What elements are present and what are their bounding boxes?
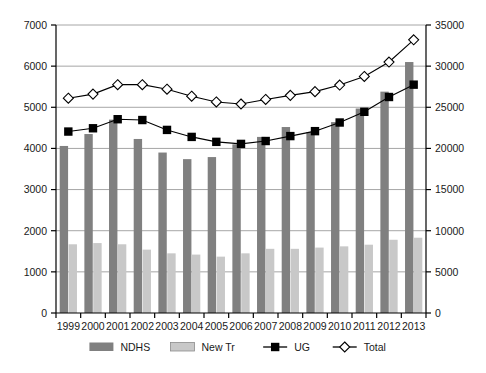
x-tick-label-2004: 2004: [180, 320, 204, 332]
marker-ug-2002: [138, 116, 146, 124]
right-tick-label-5000: 5000: [435, 266, 459, 278]
marker-ug-2013: [409, 80, 417, 88]
marker-ug-2010: [335, 118, 343, 126]
marker-ug-2007: [261, 137, 269, 145]
x-tick-label-2011: 2011: [353, 320, 376, 332]
marker-ug-2000: [89, 124, 97, 132]
left-tick-label-3000: 3000: [24, 183, 48, 195]
x-tick-label-2010: 2010: [328, 320, 352, 332]
chart-container: 01000200030004000500060007000 0500010000…: [0, 0, 486, 373]
bar-newtr-2000: [93, 243, 101, 313]
bar-newtr-2010: [340, 246, 348, 313]
right-tick-label-10000: 10000: [435, 225, 464, 237]
right-tick-label-0: 0: [435, 307, 441, 319]
x-tick-label-1999: 1999: [57, 320, 81, 332]
marker-ug-2006: [237, 140, 245, 148]
legend-swatch-ndhs: [89, 343, 113, 352]
bar-ndhs-2007: [257, 137, 265, 313]
bar-newtr-2001: [118, 244, 126, 313]
bar-newtr-2009: [315, 248, 323, 313]
bar-ndhs-2013: [405, 62, 413, 313]
bar-newtr-2007: [266, 249, 274, 313]
bar-ndhs-2009: [306, 132, 314, 313]
bar-newtr-2004: [192, 255, 200, 313]
bar-newtr-2008: [291, 249, 299, 313]
legend-label-ug: UG: [294, 341, 310, 353]
bar-ndhs-2004: [183, 159, 191, 313]
left-tick-label-6000: 6000: [24, 60, 48, 72]
x-tick-label-2008: 2008: [279, 320, 303, 332]
bar-ndhs-2010: [331, 122, 339, 313]
right-tick-label-30000: 30000: [435, 60, 464, 72]
left-tick-label-0: 0: [41, 307, 47, 319]
bar-ndhs-2006: [232, 144, 240, 313]
bar-ndhs-2005: [208, 157, 216, 313]
marker-ug-2012: [385, 93, 393, 101]
marker-ug-2011: [360, 108, 368, 116]
bar-newtr-1999: [69, 244, 77, 313]
marker-ug-2004: [187, 133, 195, 141]
left-tick-label-4000: 4000: [24, 142, 48, 154]
x-tick-label-2012: 2012: [377, 320, 401, 332]
bar-ndhs-2000: [84, 134, 92, 313]
bar-ndhs-1999: [60, 146, 68, 313]
bar-ndhs-2011: [356, 109, 364, 313]
bar-ndhs-2003: [158, 153, 166, 313]
x-tick-label-2013: 2013: [402, 320, 426, 332]
bar-newtr-2006: [241, 253, 249, 313]
right-tick-label-15000: 15000: [435, 183, 464, 195]
legend-label-new-tr: New Tr: [202, 341, 236, 353]
marker-ug-2003: [163, 126, 171, 134]
x-tick-label-2002: 2002: [131, 320, 155, 332]
x-tick-label-2005: 2005: [205, 320, 229, 332]
bar-newtr-2002: [143, 250, 151, 313]
bar-newtr-2011: [365, 245, 373, 313]
bar-ndhs-2008: [282, 127, 290, 313]
right-tick-label-35000: 35000: [435, 19, 464, 31]
marker-ug-1999: [64, 127, 72, 135]
dual-axis-bar-line-chart: 01000200030004000500060007000 0500010000…: [0, 0, 486, 373]
bar-ndhs-2012: [380, 92, 388, 313]
legend-label-total: Total: [364, 341, 386, 353]
x-tick-label-2006: 2006: [229, 320, 253, 332]
marker-ug-2008: [286, 132, 294, 140]
x-tick-label-2001: 2001: [106, 320, 130, 332]
right-tick-label-20000: 20000: [435, 142, 464, 154]
x-tick-label-2009: 2009: [303, 320, 327, 332]
legend-marker-ug: [271, 343, 279, 351]
legend-label-ndhs: NDHS: [120, 341, 150, 353]
x-tick-label-2007: 2007: [254, 320, 278, 332]
legend-swatch-new-tr: [171, 343, 195, 352]
bar-newtr-2005: [217, 257, 225, 313]
marker-ug-2009: [311, 127, 319, 135]
x-tick-label-2003: 2003: [155, 320, 179, 332]
bar-newtr-2013: [414, 238, 422, 313]
left-tick-label-5000: 5000: [24, 101, 48, 113]
left-tick-label-1000: 1000: [24, 266, 48, 278]
bar-newtr-2003: [167, 253, 175, 313]
left-tick-label-2000: 2000: [24, 225, 48, 237]
marker-ug-2001: [113, 115, 121, 123]
left-tick-label-7000: 7000: [24, 19, 48, 31]
bar-ndhs-2002: [134, 139, 142, 313]
bar-newtr-2012: [389, 240, 397, 313]
marker-ug-2005: [212, 138, 220, 146]
right-tick-label-25000: 25000: [435, 101, 464, 113]
bar-ndhs-2001: [109, 120, 117, 313]
x-tick-label-2000: 2000: [81, 320, 105, 332]
